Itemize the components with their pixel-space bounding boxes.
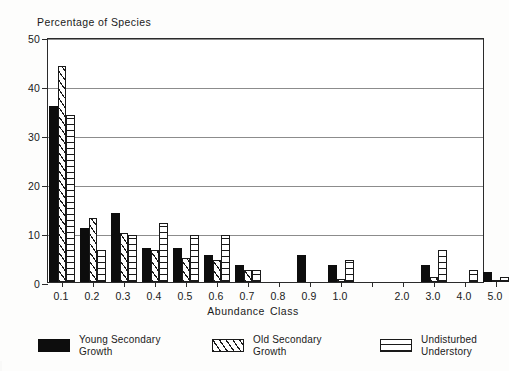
y-axis-label-50: 50 <box>28 34 40 45</box>
x-axis-tick-0.5 <box>186 282 187 287</box>
x-axis-label-0.9: 0.9 <box>301 290 316 302</box>
x-axis-label-2.0: 2.0 <box>394 290 409 302</box>
legend-label-line-1: Undisturbed <box>421 334 477 346</box>
bar-solid-black-class-0.5 <box>173 248 182 282</box>
bar-diagonal-hatch-class-0.1 <box>58 66 67 282</box>
legend-item-young-secondary-growth: Young SecondaryGrowth <box>38 334 161 357</box>
bar-solid-black-class-0.9 <box>297 255 306 282</box>
bar-diagonal-hatch-class-0.2 <box>89 218 98 282</box>
x-axis-tick-1.0 <box>341 282 342 287</box>
bar-solid-black-class-1.0 <box>328 265 337 282</box>
legend-item-old-secondary-growth: Old SecondaryGrowth <box>212 334 322 357</box>
x-axis-label-0.7: 0.7 <box>239 290 254 302</box>
x-axis-tick-4.0 <box>465 282 466 287</box>
legend-label-old-secondary-growth: Old SecondaryGrowth <box>253 334 322 357</box>
plot-area: 01020304050 <box>47 38 484 283</box>
bar-solid-black-class-0.4 <box>142 248 151 282</box>
gridline-y-50 <box>48 39 483 40</box>
y-axis-tick-10 <box>42 235 48 236</box>
x-axis-tick-0.3 <box>124 282 125 287</box>
legend-label-line-1: Old Secondary <box>253 334 322 346</box>
x-axis-title: AbundanceClass <box>0 305 506 317</box>
legend-label-line-1: Young Secondary <box>79 334 161 346</box>
x-axis-label-3.0: 3.0 <box>425 290 440 302</box>
x-axis-tick-5.0 <box>496 282 497 287</box>
bar-solid-black-class-0.7 <box>235 265 244 282</box>
x-axis-tick-minor <box>372 282 373 287</box>
legend-swatch-undisturbed-understory <box>380 339 412 352</box>
legend-label-line-2: Growth <box>253 346 322 358</box>
bar-grid-crosshatch-class-1.0 <box>345 260 354 282</box>
bar-diagonal-hatch-class-5.0 <box>492 280 501 282</box>
y-axis-label-30: 30 <box>28 132 40 143</box>
y-axis-label-0: 0 <box>34 279 40 290</box>
legend-label-line-2: Growth <box>79 346 161 358</box>
x-axis-label-4.0: 4.0 <box>456 290 471 302</box>
bar-diagonal-hatch-class-0.4 <box>151 250 160 282</box>
bar-diagonal-hatch-class-0.5 <box>182 258 191 283</box>
y-axis-label-40: 40 <box>28 83 40 94</box>
bar-solid-black-class-0.1 <box>49 106 58 282</box>
bar-grid-crosshatch-class-5.0 <box>500 277 509 282</box>
y-axis-label-20: 20 <box>28 181 40 192</box>
page-title: Percentage of Species <box>37 16 151 28</box>
x-axis-tick-0.4 <box>155 282 156 287</box>
legend-label-undisturbed-understory: UndisturbedUnderstory <box>421 334 477 357</box>
bar-diagonal-hatch-class-0.7 <box>244 270 253 282</box>
x-axis-title-word-1: Abundance <box>207 305 265 317</box>
bar-diagonal-hatch-class-0.6 <box>213 260 222 282</box>
x-axis-tick-0.2 <box>93 282 94 287</box>
x-axis-title-word-2: Class <box>270 305 299 317</box>
bar-solid-black-class-0.6 <box>204 255 213 282</box>
x-axis-label-0.1: 0.1 <box>53 290 68 302</box>
legend-label-young-secondary-growth: Young SecondaryGrowth <box>79 334 161 357</box>
x-axis-tick-3.0 <box>434 282 435 287</box>
y-axis-tick-20 <box>42 186 48 187</box>
gridline-y-40 <box>48 88 483 89</box>
x-axis-label-0.6: 0.6 <box>208 290 223 302</box>
x-axis-tick-0.1 <box>62 282 63 287</box>
bar-diagonal-hatch-class-1.0 <box>337 279 346 282</box>
bar-grid-crosshatch-class-4.0 <box>469 270 478 282</box>
bar-solid-black-class-5.0 <box>483 272 492 282</box>
x-axis-label-0.5: 0.5 <box>177 290 192 302</box>
bar-grid-crosshatch-class-0.2 <box>97 250 106 282</box>
bar-grid-crosshatch-class-0.7 <box>252 270 261 282</box>
bar-grid-crosshatch-class-0.1 <box>66 115 75 282</box>
legend-swatch-old-secondary-growth <box>212 339 244 352</box>
bar-diagonal-hatch-class-3.0 <box>430 277 439 282</box>
y-axis-tick-50 <box>42 39 48 40</box>
bar-grid-crosshatch-class-3.0 <box>438 250 447 282</box>
x-axis-tick-0.7 <box>248 282 249 287</box>
x-axis-label-5.0: 5.0 <box>487 290 502 302</box>
y-axis-label-10: 10 <box>28 230 40 241</box>
legend-item-undisturbed-understory: UndisturbedUnderstory <box>380 334 477 357</box>
bar-solid-black-class-0.2 <box>80 228 89 282</box>
bar-grid-crosshatch-class-0.3 <box>128 235 137 282</box>
x-axis-label-0.4: 0.4 <box>146 290 161 302</box>
bar-diagonal-hatch-class-0.3 <box>120 233 129 282</box>
y-axis-tick-40 <box>42 88 48 89</box>
x-axis-tick-0.9 <box>310 282 311 287</box>
x-axis-label-1.0: 1.0 <box>332 290 347 302</box>
bar-grid-crosshatch-class-0.6 <box>221 235 230 282</box>
x-axis-tick-0.6 <box>217 282 218 287</box>
bar-grid-crosshatch-class-0.5 <box>190 235 199 282</box>
legend-label-line-2: Understory <box>421 346 477 358</box>
x-axis-tick-2.0 <box>403 282 404 287</box>
bar-solid-black-class-0.3 <box>111 213 120 282</box>
legend: Young SecondaryGrowthOld SecondaryGrowth… <box>0 320 506 366</box>
gridline-y-20 <box>48 186 483 187</box>
y-axis-tick-0 <box>42 284 48 285</box>
x-axis-label-0.2: 0.2 <box>84 290 99 302</box>
y-axis-tick-30 <box>42 137 48 138</box>
bar-solid-black-class-3.0 <box>421 265 430 282</box>
x-axis-label-0.8: 0.8 <box>270 290 285 302</box>
bar-grid-crosshatch-class-0.4 <box>159 223 168 282</box>
legend-swatch-young-secondary-growth <box>38 339 70 352</box>
x-axis-tick-0.8 <box>279 282 280 287</box>
x-axis-label-0.3: 0.3 <box>115 290 130 302</box>
gridline-y-30 <box>48 137 483 138</box>
